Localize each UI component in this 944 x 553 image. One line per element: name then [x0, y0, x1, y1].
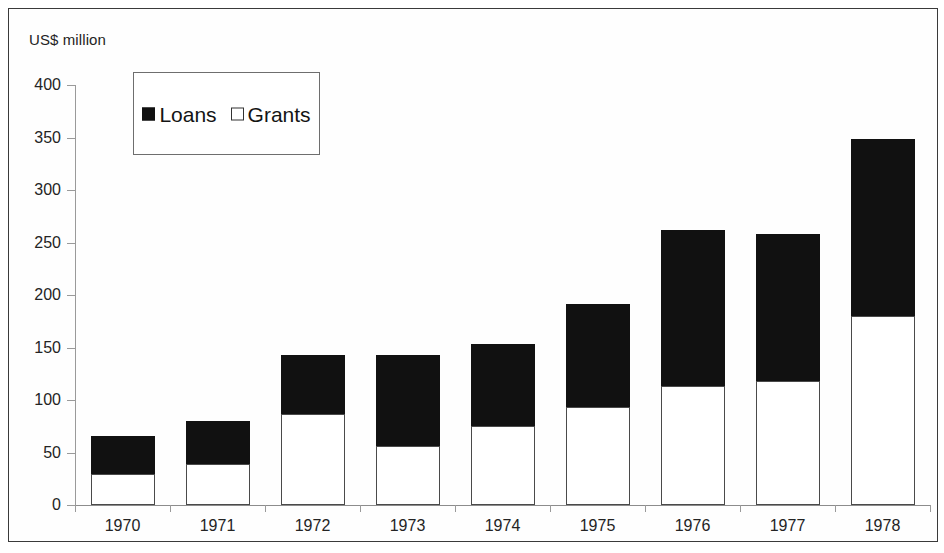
bar-segment-loans	[756, 234, 820, 381]
x-axis-tick-mark	[265, 505, 266, 512]
bar-segment-grants	[186, 464, 250, 505]
y-axis-tick-mark	[67, 138, 75, 139]
x-axis-tick-label: 1978	[865, 517, 901, 535]
bar-stack	[281, 355, 345, 505]
y-axis-tick-label: 50	[43, 444, 61, 462]
y-axis-tick-mark	[67, 505, 75, 506]
x-axis-tick-label: 1975	[580, 517, 616, 535]
x-axis-tick-label: 1973	[390, 517, 426, 535]
x-axis-tick-label: 1970	[105, 517, 141, 535]
bar-stack	[376, 355, 440, 505]
y-axis-tick-label: 200	[34, 286, 61, 304]
bar-segment-grants	[91, 474, 155, 506]
y-axis-tick-mark	[67, 453, 75, 454]
bar-stack	[851, 139, 915, 505]
bar-stack	[661, 230, 725, 505]
x-axis-tick-mark	[360, 505, 361, 512]
bar-segment-loans	[661, 230, 725, 386]
bar-segment-grants	[471, 426, 535, 505]
bar-segment-loans	[281, 355, 345, 414]
y-axis-tick-mark	[67, 400, 75, 401]
legend-label-loans: Loans	[159, 103, 216, 124]
x-axis-tick-label: 1977	[770, 517, 806, 535]
bar-stack	[186, 421, 250, 505]
x-axis-line	[75, 505, 930, 506]
bar-segment-grants	[851, 316, 915, 505]
x-axis-tick-label: 1972	[295, 517, 331, 535]
y-axis-tick-label: 350	[34, 129, 61, 147]
bar-segment-grants	[566, 407, 630, 505]
y-axis-tick-mark	[67, 85, 75, 86]
bar-stack	[566, 304, 630, 505]
bar-segment-loans	[376, 355, 440, 446]
bar-stack	[756, 234, 820, 505]
y-axis-tick-label: 0	[52, 496, 61, 514]
x-axis-tick-label: 1976	[675, 517, 711, 535]
bar-segment-loans	[566, 304, 630, 407]
stacked-bar-chart: US$ million 050100150200250300350400 197…	[0, 0, 944, 553]
bar-segment-grants	[281, 414, 345, 505]
x-axis-tick-label: 1974	[485, 517, 521, 535]
y-axis-tick-mark	[67, 190, 75, 191]
y-axis-tick-label: 400	[34, 76, 61, 94]
y-axis-tick-label: 250	[34, 234, 61, 252]
bar-segment-loans	[471, 344, 535, 426]
legend-entry-grants: Grants	[231, 103, 311, 124]
legend-swatch-grants-icon	[231, 107, 244, 120]
bar-segment-loans	[91, 436, 155, 474]
x-axis-tick-mark	[835, 505, 836, 512]
x-axis-tick-mark	[75, 505, 76, 512]
legend-swatch-loans-icon	[142, 107, 155, 120]
legend-entry-loans: Loans	[142, 103, 216, 124]
x-axis-tick-mark	[170, 505, 171, 512]
bar-segment-loans	[186, 421, 250, 464]
legend-label-grants: Grants	[248, 103, 311, 124]
y-axis-unit-label: US$ million	[29, 31, 106, 48]
y-axis-tick-label: 150	[34, 339, 61, 357]
x-axis-tick-label: 1971	[200, 517, 236, 535]
bar-segment-grants	[661, 386, 725, 505]
x-axis-tick-mark	[645, 505, 646, 512]
bar-segment-loans	[851, 139, 915, 316]
bar-stack	[471, 344, 535, 505]
x-axis-tick-mark	[550, 505, 551, 512]
bar-stack	[91, 436, 155, 505]
x-axis-tick-mark	[740, 505, 741, 512]
bar-segment-grants	[376, 446, 440, 505]
y-axis-tick-mark	[67, 348, 75, 349]
y-axis-tick-mark	[67, 295, 75, 296]
y-axis-tick-mark	[67, 243, 75, 244]
x-axis-tick-mark	[455, 505, 456, 512]
chart-legend: Loans Grants	[133, 72, 320, 155]
bar-segment-grants	[756, 381, 820, 505]
y-axis-tick-label: 300	[34, 181, 61, 199]
x-axis-tick-mark	[930, 505, 931, 512]
y-axis-tick-label: 100	[34, 391, 61, 409]
